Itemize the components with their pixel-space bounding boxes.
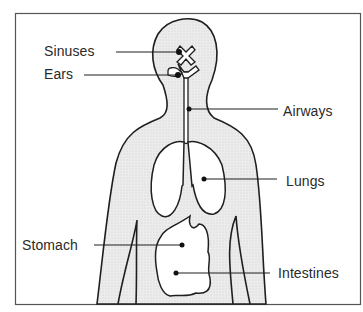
label-intestines: Intestines bbox=[278, 266, 339, 280]
label-lungs: Lungs bbox=[286, 174, 325, 188]
dot-stomach bbox=[180, 243, 185, 248]
label-sinuses: Sinuses bbox=[44, 44, 95, 58]
label-stomach: Stomach bbox=[22, 238, 78, 252]
dot-intestines bbox=[174, 271, 179, 276]
dot-lungs bbox=[202, 177, 207, 182]
dot-sinuses bbox=[176, 49, 182, 55]
label-airways: Airways bbox=[283, 104, 333, 118]
dot-ears bbox=[175, 72, 181, 78]
dot-airways bbox=[187, 107, 192, 112]
label-ears: Ears bbox=[44, 67, 73, 81]
